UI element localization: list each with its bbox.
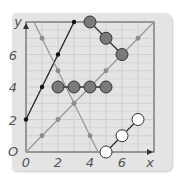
data-point (24, 117, 28, 121)
x-tick-label: 0 (22, 155, 30, 170)
large-data-point (84, 16, 96, 28)
large-data-point (52, 81, 64, 93)
large-data-point (100, 32, 112, 44)
large-data-point (68, 81, 80, 93)
large-data-point (100, 146, 112, 158)
x-tick-label: 6 (118, 155, 126, 170)
data-point (40, 36, 45, 41)
large-data-point (116, 130, 128, 142)
data-point (56, 117, 61, 122)
data-point (56, 68, 61, 73)
data-point (104, 68, 109, 73)
x-axis-label: x (145, 155, 154, 170)
large-data-point (100, 81, 112, 93)
origin-label: O (8, 144, 18, 159)
y-axis-arrow-icon (23, 23, 29, 29)
data-point (40, 133, 45, 138)
y-tick-label: 6 (9, 48, 17, 63)
large-data-point (116, 49, 128, 61)
coordinate-plane-chart: 0246246Oxy (0, 0, 176, 184)
large-data-point (84, 81, 96, 93)
y-tick-label: 2 (9, 113, 17, 128)
data-point (40, 85, 44, 89)
x-tick-label: 2 (54, 155, 62, 170)
x-tick-label: 4 (86, 155, 94, 170)
data-point (56, 52, 60, 56)
data-point (136, 36, 141, 41)
y-axis-label: y (13, 14, 22, 29)
data-point (72, 20, 76, 24)
data-point (88, 133, 93, 138)
large-data-point (132, 114, 144, 126)
y-tick-label: 4 (9, 80, 17, 95)
data-point (72, 101, 77, 106)
